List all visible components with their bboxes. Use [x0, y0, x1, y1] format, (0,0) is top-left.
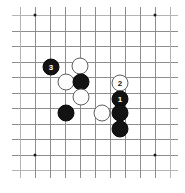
stone-black-c [112, 105, 129, 122]
stone-move-number: 2 [118, 79, 122, 87]
stone-white-c [73, 89, 90, 106]
go-board-diagram: 321 [0, 0, 185, 193]
stone-black-d [112, 121, 129, 138]
stone-white-a [72, 58, 89, 75]
stone-move-number: 3 [49, 63, 53, 71]
stone-black-b [58, 105, 75, 122]
stone-black-move-3: 3 [43, 59, 60, 76]
stone-move-number: 1 [118, 95, 122, 103]
board-stones: 321 [0, 0, 185, 193]
stone-white-move-2: 2 [112, 75, 129, 92]
stone-white-d [94, 105, 111, 122]
